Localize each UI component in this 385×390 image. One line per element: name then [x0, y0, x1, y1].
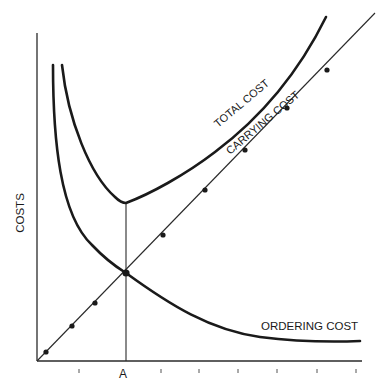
eoq-cost-chart: COSTS A TOTAL COST CARRYING COST ORDERIN…: [0, 0, 385, 390]
carrying-cost-dot: [202, 187, 207, 192]
carrying-cost-dot: [92, 300, 97, 305]
carrying-cost-dot: [242, 147, 247, 152]
carrying-cost-dot: [160, 232, 165, 237]
ordering-cost-label: ORDERING COST: [261, 320, 358, 332]
carrying-cost-line: [37, 13, 375, 361]
y-axis-label: COSTS: [14, 193, 26, 233]
carrying-cost-dot: [43, 349, 48, 354]
carrying-cost-label: CARRYING COST: [224, 88, 302, 156]
carrying-cost-dot: [324, 67, 329, 72]
ordering-cost-curve: [53, 65, 360, 342]
x-marker-a-label: A: [119, 367, 127, 381]
carrying-cost-dot: [69, 323, 74, 328]
